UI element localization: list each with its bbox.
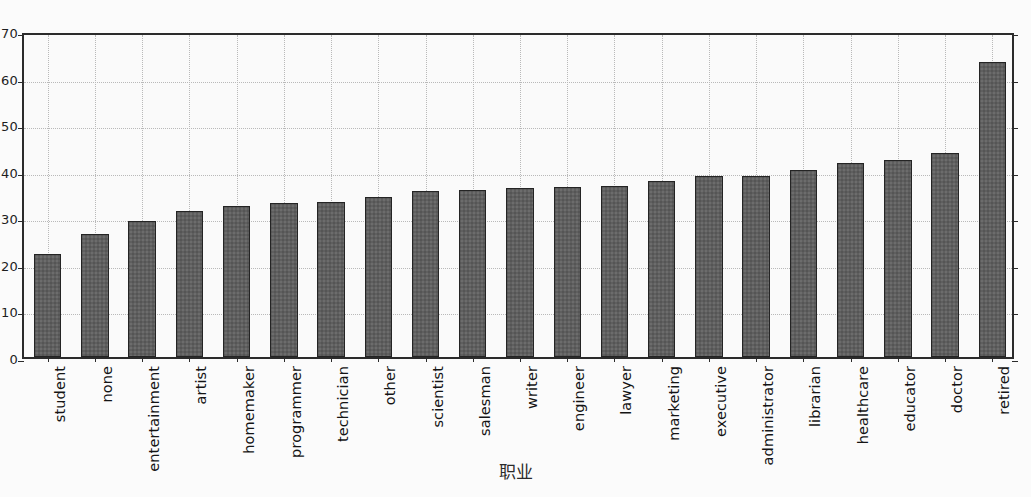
y-tick-label: 30 <box>0 212 18 227</box>
y-tick-label: 10 <box>0 305 18 320</box>
x-tick-label: entertainment <box>146 366 162 472</box>
y-tick-mark <box>18 82 24 83</box>
y-tick-label: 50 <box>0 119 18 134</box>
y-tick-mark <box>1012 314 1018 315</box>
x-tick-mark <box>662 357 663 362</box>
bar-chart-figure: 010203040506070 studentnoneentertainment… <box>0 0 1031 497</box>
y-tick-mark <box>18 221 24 222</box>
bar <box>695 176 722 357</box>
x-tick-label: scientist <box>430 366 446 428</box>
y-tick-label: 20 <box>0 258 18 273</box>
bar <box>81 234 108 357</box>
x-tick-label: none <box>99 366 115 403</box>
x-tick-label: retired <box>996 366 1012 415</box>
bar <box>270 203 297 357</box>
x-tick-label: administrator <box>760 366 776 465</box>
x-tick-mark <box>95 357 96 362</box>
bar <box>601 186 628 357</box>
y-tick-mark <box>1012 82 1018 83</box>
x-tick-mark <box>473 357 474 362</box>
x-tick-label: engineer <box>571 366 587 431</box>
y-tick-mark <box>1012 221 1018 222</box>
bar <box>790 170 817 357</box>
y-tick-mark <box>18 268 24 269</box>
y-tick-mark <box>1012 128 1018 129</box>
bar <box>317 202 344 357</box>
y-tick-mark <box>1012 35 1018 36</box>
x-tick-label: artist <box>193 366 209 404</box>
x-tick-mark <box>992 357 993 362</box>
bar <box>884 160 911 357</box>
x-tick-mark <box>284 357 285 362</box>
y-tick-label: 60 <box>0 72 18 87</box>
x-tick-label: technician <box>335 366 351 442</box>
bar <box>459 190 486 357</box>
bar <box>365 197 392 357</box>
y-tick-mark <box>18 128 24 129</box>
y-tick-label: 70 <box>0 26 18 41</box>
x-tick-mark <box>426 357 427 362</box>
x-tick-mark <box>378 357 379 362</box>
y-tick-label: 0 <box>0 352 18 367</box>
x-tick-mark <box>331 357 332 362</box>
y-tick-mark <box>18 175 24 176</box>
x-tick-label: other <box>382 366 398 405</box>
bars-layer <box>24 35 1012 357</box>
x-tick-mark <box>945 357 946 362</box>
y-tick-mark <box>1012 268 1018 269</box>
y-tick-mark <box>1012 361 1018 362</box>
x-tick-label: marketing <box>666 366 682 441</box>
x-tick-mark <box>709 357 710 362</box>
bar <box>742 176 769 357</box>
bar <box>648 181 675 357</box>
y-tick-mark <box>18 361 24 362</box>
x-tick-label: writer <box>524 366 540 409</box>
x-tick-label: executive <box>713 366 729 437</box>
y-tick-mark <box>18 314 24 315</box>
bar <box>554 187 581 357</box>
x-tick-label: doctor <box>949 366 965 413</box>
y-tick-mark <box>1012 175 1018 176</box>
bar <box>412 191 439 357</box>
bar <box>128 221 155 357</box>
bar <box>931 153 958 357</box>
x-tick-mark <box>898 357 899 362</box>
bar <box>176 211 203 357</box>
y-tick-mark <box>18 35 24 36</box>
x-tick-mark <box>851 357 852 362</box>
x-tick-label: educator <box>902 366 918 432</box>
plot-area <box>22 33 1014 359</box>
bar <box>837 163 864 357</box>
x-tick-label: student <box>52 366 68 422</box>
x-tick-mark <box>48 357 49 362</box>
x-tick-label: homemaker <box>241 366 257 454</box>
x-tick-mark <box>520 357 521 362</box>
y-tick-label: 40 <box>0 165 18 180</box>
x-tick-label: healthcare <box>855 366 871 444</box>
bar <box>34 254 61 357</box>
x-tick-mark <box>189 357 190 362</box>
bar <box>223 206 250 357</box>
bar <box>506 188 533 357</box>
x-tick-mark <box>142 357 143 362</box>
x-tick-mark <box>567 357 568 362</box>
x-tick-mark <box>237 357 238 362</box>
x-tick-mark <box>803 357 804 362</box>
x-axis-title: 职业 <box>0 458 1031 483</box>
x-tick-label: librarian <box>807 366 823 427</box>
x-tick-label: programmer <box>288 366 304 458</box>
bar <box>979 62 1006 357</box>
x-tick-mark <box>614 357 615 362</box>
x-tick-label: lawyer <box>618 366 634 415</box>
x-tick-label: salesman <box>477 366 493 436</box>
x-tick-mark <box>756 357 757 362</box>
